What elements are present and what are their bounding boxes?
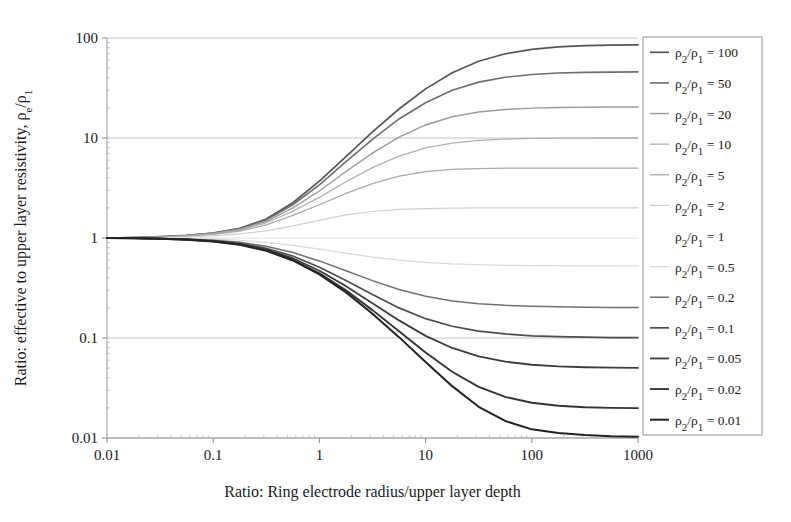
x-tick-label: 10 [418,447,433,463]
y-tick-label: 100 [76,30,99,46]
x-tick-label: 1 [316,447,324,463]
y-tick-label: 0.01 [72,430,98,446]
x-tick-label: 0.01 [94,447,120,463]
y-tick-label: 0.1 [79,330,98,346]
y-tick-label: 10 [83,130,98,146]
y-tick-label: 1 [91,230,99,246]
x-tick-label: 100 [521,447,544,463]
chart-legend: ρ2/ρ1 = 100ρ2/ρ1 = 50ρ2/ρ1 = 20ρ2/ρ1 = 1… [643,37,762,435]
resistivity-ratio-chart: 0.010.11101001000 0.010.1110100 Ratio: R… [0,0,791,522]
x-tick-label: 1000 [623,447,653,463]
x-axis-title: Ratio: Ring electrode radius/upper layer… [224,483,520,501]
x-tick-label: 0.1 [204,447,223,463]
